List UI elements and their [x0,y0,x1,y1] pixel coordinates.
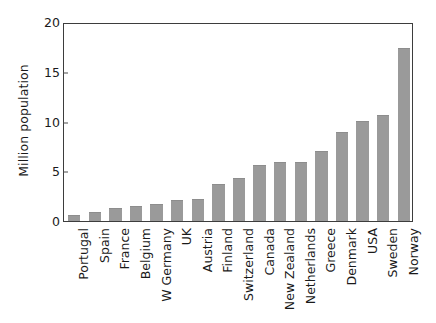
bar [109,208,121,221]
y-axis-tick-labels: 05101520 [34,0,60,323]
bar [377,115,389,221]
y-axis-title: Million population [12,40,34,200]
bar [192,199,204,221]
bar [212,184,224,221]
bar [274,162,286,221]
y-tick-label: 0 [34,216,60,229]
bar [253,165,265,221]
bar [89,212,101,221]
bar-chart-figure: Million population 05101520 PortugalSpai… [0,0,436,323]
y-tick-mark [63,72,68,73]
bars-layer [64,24,412,221]
y-axis-title-text: Million population [16,64,31,177]
bar [233,178,245,221]
y-tick-mark [63,122,68,123]
y-tick-label: 10 [34,116,60,129]
bar [315,151,327,221]
bar [295,162,307,221]
y-tick-label: 5 [34,166,60,179]
bar [356,121,368,221]
bar [150,204,162,221]
bar [68,215,80,221]
plot-area [63,23,413,222]
y-tick-mark [63,172,68,173]
y-tick-label: 20 [34,17,60,30]
bar [398,48,410,221]
bar [130,206,142,221]
bar [171,200,183,221]
x-axis-tick-labels: PortugalSpainFranceBelgiumW GermanyUKAus… [63,224,413,323]
y-tick-label: 15 [34,67,60,80]
bar [336,132,348,221]
